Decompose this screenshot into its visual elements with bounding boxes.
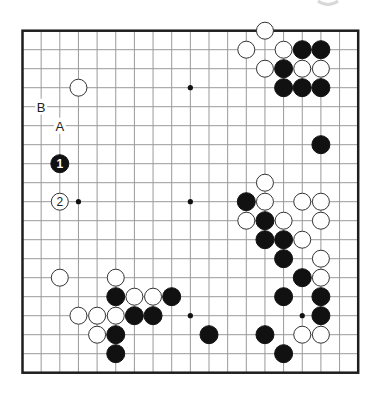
white-stone [70, 307, 87, 324]
white-stone [312, 193, 329, 210]
white-stone [312, 326, 329, 343]
white-stone [256, 174, 273, 191]
black-stone [275, 231, 293, 249]
white-stone [238, 212, 255, 229]
point-labels: BA [35, 99, 66, 134]
go-board: BA 12 [0, 0, 380, 397]
black-stone [275, 250, 293, 268]
white-stone [126, 288, 143, 305]
black-stone [312, 288, 330, 306]
white-stone [275, 212, 292, 229]
black-stone [107, 345, 125, 363]
header-icon-fragment [318, 1, 338, 5]
black-stone [312, 79, 330, 97]
white-stone [294, 60, 311, 77]
black-stone [107, 326, 125, 344]
white-stone [256, 22, 273, 39]
white-stone [312, 250, 329, 267]
black-stone [163, 288, 181, 306]
black-stone [107, 288, 125, 306]
white-stone [107, 269, 124, 286]
white-stone [89, 307, 106, 324]
white-stone [107, 307, 124, 324]
black-stone [237, 193, 255, 211]
black-stone [312, 307, 330, 325]
star-point [76, 199, 81, 204]
black-stone [256, 212, 274, 230]
black-stone [275, 288, 293, 306]
white-stone [89, 326, 106, 343]
white-stone [256, 60, 273, 77]
white-stone [294, 326, 311, 343]
white-stone [51, 269, 68, 286]
point-label-b: B [37, 100, 46, 115]
black-stone [293, 269, 311, 287]
black-stone [256, 326, 274, 344]
star-point [188, 85, 193, 90]
white-stone [312, 60, 329, 77]
star-point [188, 313, 193, 318]
move-number: 2 [56, 195, 63, 209]
black-stone [200, 326, 218, 344]
black-stone [125, 307, 143, 325]
black-stone [256, 231, 274, 249]
white-stone [238, 41, 255, 58]
black-stone [275, 60, 293, 78]
white-stone [275, 41, 292, 58]
white-stone [145, 288, 162, 305]
white-stone [70, 79, 87, 96]
black-stone [275, 79, 293, 97]
black-stone [293, 41, 311, 59]
white-stone [312, 212, 329, 229]
star-point [188, 199, 193, 204]
white-stone [294, 193, 311, 210]
black-stone [275, 345, 293, 363]
star-point [300, 313, 305, 318]
black-stone [312, 136, 330, 154]
white-stone [312, 269, 329, 286]
white-stone [256, 193, 273, 210]
white-stone [294, 231, 311, 248]
black-stone [144, 307, 162, 325]
black-stone [312, 41, 330, 59]
black-stone [293, 79, 311, 97]
move-number: 1 [56, 157, 63, 171]
point-label-a: A [55, 119, 64, 134]
